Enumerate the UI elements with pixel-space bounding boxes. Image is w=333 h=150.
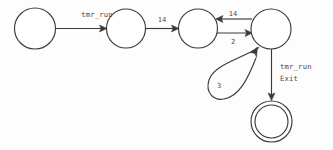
state-machine-diagram: tmr_run 14 14 2 3 tmr_run Exit [0, 0, 333, 150]
accepting-state-inner-circle [255, 105, 288, 138]
transition-s4-s5 [268, 49, 275, 101]
transition-label-tmr-run-exit-line2: Exit [280, 74, 298, 83]
transition-label-2: 2 [231, 38, 235, 46]
transition-s2-s3 [146, 25, 179, 32]
transition-label-tmr-run-1: tmr_run [81, 10, 113, 19]
transition-s4-self-loop-path [208, 48, 259, 100]
transition-label-14-backward: 14 [229, 10, 237, 18]
state-node-5-accepting[interactable] [251, 101, 292, 142]
transition-s4-self-loop [208, 47, 259, 99]
state-node-1[interactable] [15, 8, 56, 49]
transition-s1-s2 [56, 25, 107, 32]
fsm-canvas: tmr_run 14 14 2 3 tmr_run Exit [0, 0, 333, 150]
transition-label-14-forward: 14 [158, 16, 166, 24]
state-node-3[interactable] [179, 9, 218, 48]
transition-s4-self-loop-arrowhead [251, 47, 258, 58]
state-node-4[interactable] [251, 9, 291, 49]
transition-label-tmr-run-exit-line1: tmr_run [280, 62, 312, 71]
transition-label-3-self-loop: 3 [217, 82, 221, 90]
transition-s3-s4 [215, 30, 253, 37]
